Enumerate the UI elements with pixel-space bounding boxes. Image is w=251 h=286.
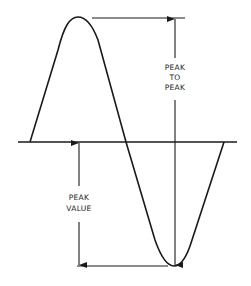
sine-wave-diagram: PEAK TO PEAK PEAK VALUE — [0, 0, 251, 286]
peak-to-peak-label-line-3: PEAK — [165, 83, 186, 92]
peak-value-label-line-1: PEAK — [69, 193, 90, 202]
peak-to-peak-label-line-1: PEAK — [165, 63, 186, 72]
peak-to-peak-label: PEAK TO PEAK — [165, 63, 186, 92]
peak-value-label-line-2: VALUE — [66, 204, 91, 213]
peak-to-peak-label-line-2: TO — [168, 73, 180, 82]
peak-value-label: PEAK VALUE — [66, 193, 91, 213]
